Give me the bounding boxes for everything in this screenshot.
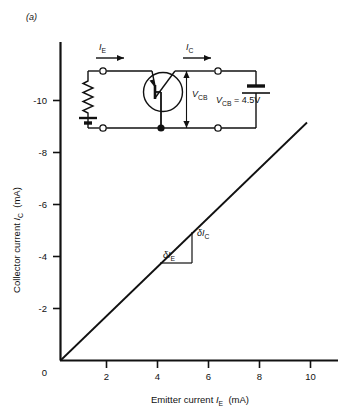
y-tick-label: -8 [39,147,47,158]
collector-current-arrow [183,55,211,61]
data-series-line [61,123,307,361]
y-tick-label: -10 [33,95,47,106]
supply-label-value: = 4.5V [234,95,260,105]
ic-subscript: C [189,47,194,54]
transistor-envelope [144,73,183,112]
figure-panel-a: (a) -10 -8 -6 -4 -2 0 2 4 6 8 10 [0,0,350,414]
supply-cell [242,86,270,93]
supply-label: VCB = 4.5V [216,95,260,107]
transistor-collector-lead [155,71,175,98]
y-axis-ticks [53,101,60,309]
collector-current-label: IC [186,42,194,54]
x-tick-label: 8 [257,371,262,382]
x-tick-label: 2 [104,371,109,382]
x-tick-label: 4 [155,371,160,382]
y-tick-label: -4 [39,251,47,262]
vcb-subscript: CB [198,94,208,101]
terminal-post-c-top [215,68,221,74]
circuit-diagram: VCB VCB = 4.5V IE IC [79,42,270,132]
y-axis-title: Collector current IC (mA) [11,187,24,293]
y-tick-label-origin: 0 [42,367,47,378]
resistor [83,78,93,118]
vcb-measure-arrows [183,71,189,128]
ie-subscript: E [102,47,107,54]
emitter-current-arrow [96,55,124,61]
delta-ic-label: δIC [197,228,210,240]
x-axis-tick-labels: 2 4 6 8 10 [104,371,316,382]
y-tick-label: -2 [39,303,47,314]
y-axis-tick-labels: -10 -8 -6 -4 -2 0 [33,95,47,378]
delta-ie-subscript: E [171,255,176,262]
y-tick-label: -6 [39,199,47,210]
terminal-post-e-bottom [100,125,106,131]
chart-axes [60,42,338,361]
terminal-post-e-top [100,68,106,74]
panel-tag: (a) [26,12,37,22]
y-axis-title-prefix: Collector current [11,221,22,293]
delta-ic-subscript: C [205,233,210,240]
x-tick-label: 10 [305,371,316,382]
terminal-post-c-bottom [215,125,221,131]
emitter-current-label: IE [99,42,107,54]
x-tick-label: 6 [206,371,211,382]
supply-label-subscript: CB [222,100,232,107]
x-axis-title-prefix: Emitter current [151,394,216,405]
vcb-label: VCB [192,89,208,101]
x-axis-title-units: (mA) [228,394,249,405]
x-axis-title: Emitter current IE (mA) [151,394,249,407]
junction-dot-base [157,124,164,131]
y-axis-title-units: (mA) [11,187,22,208]
